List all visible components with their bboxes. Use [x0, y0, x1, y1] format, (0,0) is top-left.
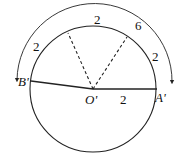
label-a-prime: A': [154, 90, 166, 105]
circle-diagram: B' A' O' 2 2 2 2 6: [0, 0, 182, 165]
label-b-prime: B': [18, 74, 29, 89]
label-total-arc: 6: [135, 18, 142, 33]
label-left-arc: 2: [33, 39, 40, 54]
radius-o-b: [31, 81, 93, 89]
label-o-prime: O': [85, 92, 97, 107]
dashed-radius-left: [68, 33, 93, 89]
label-top-arc: 2: [94, 12, 101, 27]
dashed-radius-right: [93, 37, 127, 89]
label-radius: 2: [120, 92, 127, 107]
label-right-arc: 2: [152, 49, 159, 64]
